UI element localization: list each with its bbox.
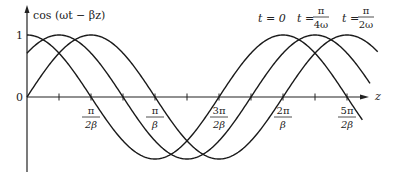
x-tick-label: 3π2β (210, 105, 228, 130)
y-axis-arrow-icon (25, 5, 30, 13)
svg-text:π: π (363, 5, 370, 16)
x-tick-label: πβ (146, 105, 164, 130)
svg-text:π: π (152, 105, 159, 116)
x-tick-label: π2β (82, 105, 100, 130)
svg-text:3π: 3π (213, 105, 226, 116)
svg-text:5π: 5π (341, 105, 354, 116)
svg-text:2β: 2β (84, 119, 97, 130)
x-tick-label: 2πβ (274, 105, 292, 130)
svg-text:4ω: 4ω (314, 19, 329, 30)
svg-text:2β: 2β (340, 119, 353, 130)
svg-text:π: π (318, 5, 325, 16)
y-tick-1: 1 (16, 29, 23, 42)
svg-text:π: π (88, 105, 95, 116)
svg-text:t =: t = (297, 12, 314, 25)
x-axis-label: z (374, 90, 381, 103)
x-tick-labels: π2βπβ3π2β2πβ5π2β (82, 105, 356, 130)
x-tick-label: 5π2β (338, 105, 356, 130)
svg-text:t =: t = (342, 12, 359, 25)
svg-text:2β: 2β (212, 119, 225, 130)
x-axis-arrow-icon (360, 95, 369, 100)
svg-text:β: β (279, 119, 286, 130)
legend-t0: t = 0 (258, 12, 286, 25)
svg-text:β: β (151, 119, 158, 130)
y-tick-0: 0 (16, 91, 23, 104)
svg-text:2π: 2π (277, 105, 290, 116)
svg-text:2ω: 2ω (359, 19, 374, 30)
legend-t-pi-4omega: t = π 4ω (297, 5, 329, 30)
y-axis-label: cos (ωt − βz) (33, 9, 105, 22)
legend-t-pi-2omega: t = π 2ω (342, 5, 374, 30)
wave-plot: cos (ωt − βz) z 1 0 π2βπβ3π2β2πβ5π2β t =… (0, 0, 398, 175)
